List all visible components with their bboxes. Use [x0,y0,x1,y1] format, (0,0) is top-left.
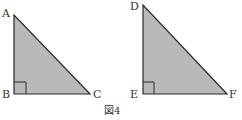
vertex-label-b: B [2,88,10,101]
figure-canvas: A B C D E F 図4 [0,0,242,120]
vertex-label-d: D [130,0,139,13]
triangle-def-shape [143,5,227,94]
vertex-label-e: E [130,88,138,101]
vertex-label-f: F [229,88,237,101]
vertex-label-a: A [1,7,11,20]
triangle-def: D E F [130,0,237,101]
vertex-label-c: C [93,88,101,101]
triangle-abc: A B C [1,7,101,101]
figure-caption: 図4 [104,105,120,116]
